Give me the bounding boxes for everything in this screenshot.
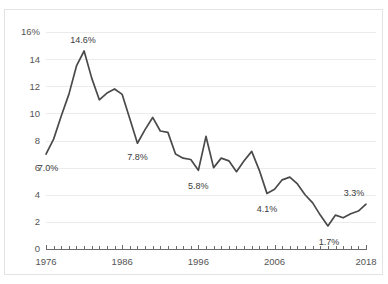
data-point-label: 3.3%: [344, 188, 365, 198]
data-point-label: 14.6%: [70, 35, 96, 45]
x-axis-tick-label: 2006: [264, 256, 285, 267]
y-axis-tick-label: 10: [29, 108, 40, 119]
x-axis-tick-label: 1976: [35, 256, 56, 267]
y-axis-tick-label: 16%: [21, 26, 41, 37]
data-point-label: 5.8%: [188, 181, 209, 191]
x-axis-tick-label: 2018: [355, 256, 376, 267]
y-axis-tick-label: 0: [35, 243, 40, 254]
data-point-label: 4.1%: [257, 204, 278, 214]
screenshot-root: 0246810121416% 19761986199620062018 7.0%…: [0, 0, 388, 284]
x-axis-tick-label: 1986: [112, 256, 133, 267]
data-point-label: 1.7%: [319, 237, 340, 247]
y-axis-tick-label: 8: [35, 135, 40, 146]
line-chart[interactable]: 0246810121416% 19761986199620062018 7.0%…: [5, 10, 384, 276]
x-axis-tick-label: 1996: [188, 256, 209, 267]
data-point-label: 7.8%: [127, 152, 148, 162]
y-axis-tick-label: 2: [35, 216, 40, 227]
x-axis-labels-group: 19761986199620062018: [35, 256, 376, 267]
y-axis-tick-label: 12: [29, 81, 40, 92]
y-axis-tick-label: 4: [35, 189, 40, 200]
data-point-label: 7.0%: [38, 163, 59, 173]
gridlines-group: [46, 33, 376, 223]
series-group[interactable]: [46, 51, 366, 226]
chart-card: 0246810121416% 19761986199620062018 7.0%…: [4, 9, 383, 275]
y-axis-labels-group: 0246810121416%: [21, 26, 41, 254]
series-line[interactable]: [46, 51, 366, 226]
data-point-labels-group: 7.0%14.6%7.8%5.8%4.1%1.7%3.3%: [38, 35, 365, 247]
y-axis-tick-label: 14: [29, 54, 40, 65]
